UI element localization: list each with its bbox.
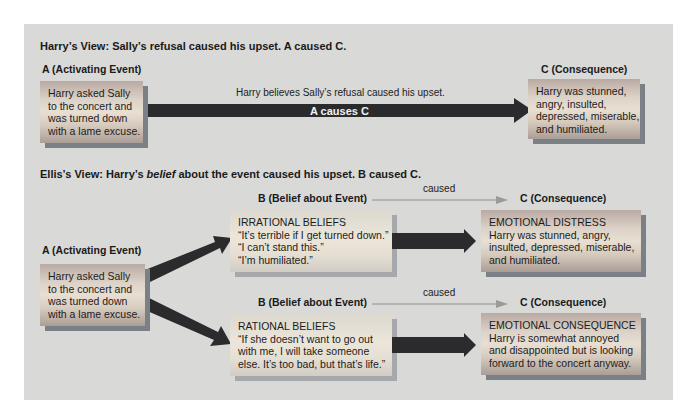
box-line: and disappointed but is looking [489, 344, 635, 357]
box-line: to the concert and [48, 283, 139, 296]
box-line: “It’s terrible if I get turned down.” [238, 229, 386, 242]
rational-caused-thin-arrow [372, 299, 512, 309]
irrational-to-distress-arrow [392, 229, 482, 255]
box-line: was turned down [48, 295, 139, 308]
box-line: Harry is somewhat annoyed [489, 332, 635, 345]
irrational-c-label: C (Consequence) [520, 192, 606, 204]
box-line: with me, I will take someone [238, 345, 386, 358]
box-line: else. It’s too bad, but that’s life.” [238, 358, 386, 371]
box-title: RATIONAL BELIEFS [238, 320, 386, 333]
ellis-a-box: Harry asked Sally to the concert and was… [40, 264, 145, 326]
box-title: EMOTIONAL CONSEQUENCE [489, 319, 635, 332]
box-line: forward to the concert anyway. [489, 357, 635, 370]
irrational-caused-label: caused [423, 183, 455, 194]
irrational-b-label: B (Belief about Event) [258, 192, 367, 204]
box-line: “I’m humiliated.” [238, 254, 386, 267]
emotional-distress-box: EMOTIONAL DISTRESS Harry was stunned, an… [481, 210, 641, 272]
emotional-consequence-box: EMOTIONAL CONSEQUENCE Harry is somewhat … [481, 313, 641, 375]
rational-caused-label: caused [423, 287, 455, 298]
rational-c-label: C (Consequence) [520, 296, 606, 308]
box-line: insulted, depressed, miserable, [489, 241, 635, 254]
irrational-caused-thin-arrow [372, 195, 512, 205]
box-title: IRRATIONAL BELIEFS [238, 216, 386, 229]
box-line: Harry was stunned, angry, [489, 229, 635, 242]
irrational-beliefs-box: IRRATIONAL BELIEFS “It’s terrible if I g… [230, 210, 392, 272]
rational-b-label: B (Belief about Event) [258, 296, 367, 308]
box-line: with a lame excuse. [48, 308, 139, 321]
box-line: and humiliated. [489, 254, 635, 267]
box-line: “I can’t stand this.” [238, 241, 386, 254]
box-line: “If she doesn’t want to go out [238, 333, 386, 346]
rational-to-consequence-arrow [392, 333, 482, 359]
box-title: EMOTIONAL DISTRESS [489, 216, 635, 229]
rational-beliefs-box: RATIONAL BELIEFS “If she doesn’t want to… [230, 314, 392, 376]
box-line: Harry asked Sally [48, 270, 139, 283]
